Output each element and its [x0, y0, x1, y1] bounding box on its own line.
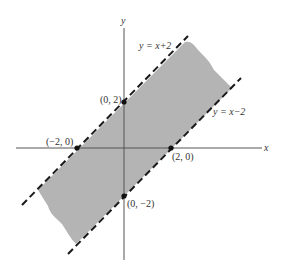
point-label-0-neg2: (0, −2)	[127, 198, 154, 210]
y-axis-label: y	[120, 15, 126, 26]
x-axis-label: x	[263, 142, 269, 153]
point-2-0	[168, 145, 173, 150]
lower-line-label: y = x−2	[212, 106, 245, 117]
point-label-2-0: (2, 0)	[172, 151, 194, 163]
point-0-2	[121, 99, 126, 104]
point-neg2-0	[74, 145, 79, 150]
point-0-neg2	[121, 193, 126, 198]
point-label-neg2-0: (−2, 0)	[46, 136, 73, 148]
point-label-0-2: (0, 2)	[100, 94, 122, 106]
upper-line-label: y = x+2	[138, 40, 171, 51]
inequality-graph: y x y = x+2 y = x−2 (0, 2) (−2, 0) (2, 0…	[0, 0, 282, 277]
